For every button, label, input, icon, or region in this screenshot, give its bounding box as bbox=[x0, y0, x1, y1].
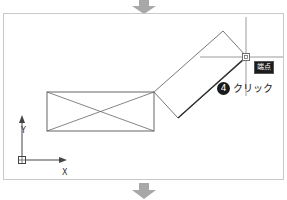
rotated-rectangle[interactable] bbox=[154, 31, 247, 118]
ucs-axis-label-x: X bbox=[62, 169, 67, 177]
step-number-badge: 4 bbox=[217, 82, 230, 95]
flow-arrow-top bbox=[0, 0, 287, 14]
endpoint-snap-marker bbox=[243, 54, 250, 61]
cad-drawing-canvas[interactable] bbox=[4, 14, 283, 179]
step-callout: 4 クリック bbox=[217, 82, 273, 95]
step-callout-label: クリック bbox=[233, 83, 273, 95]
flow-arrow-bottom bbox=[0, 182, 287, 200]
arrow-down-icon bbox=[131, 183, 157, 199]
base-rectangle-with-diagonals[interactable] bbox=[47, 92, 154, 131]
ucs-axis-label-y: Y bbox=[21, 127, 26, 135]
cad-viewport[interactable]: Y X bbox=[3, 13, 284, 180]
endpoint-snap-tooltip: 端点 bbox=[254, 61, 274, 74]
ucs-icon bbox=[19, 115, 68, 164]
arrow-down-icon bbox=[131, 0, 157, 14]
